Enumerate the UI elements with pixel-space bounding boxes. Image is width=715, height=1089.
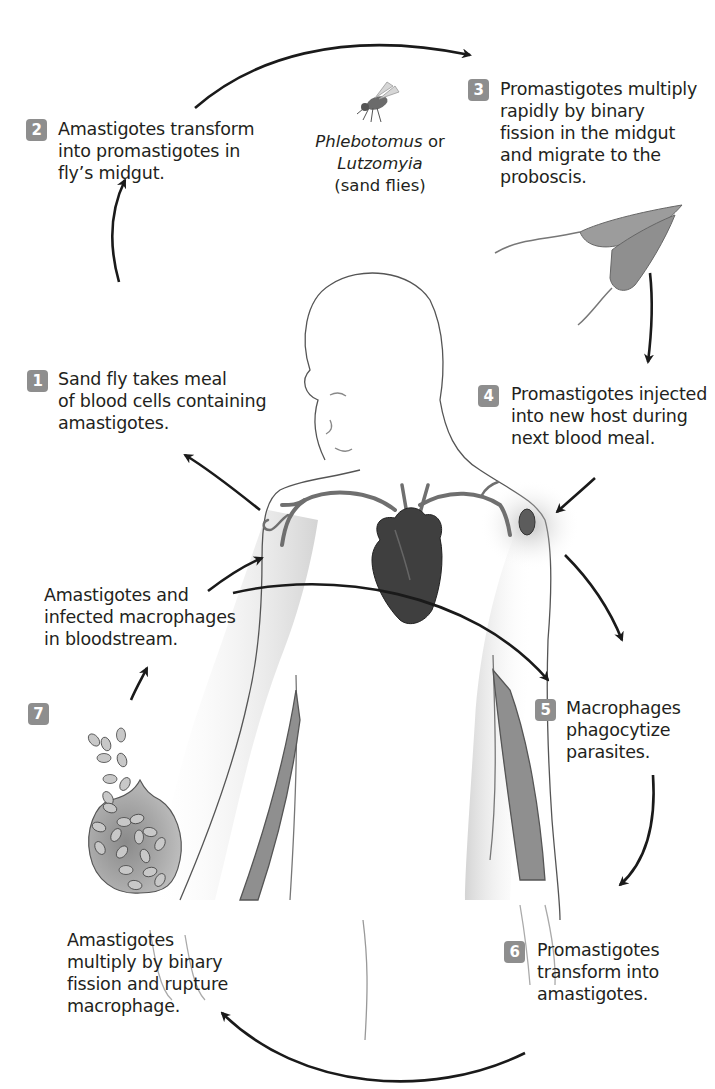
arrow-host-to-5 [565,555,622,640]
arrow-1-to-2 [112,180,125,282]
arrow-2-to-3 [195,45,470,108]
step-1-text: Sand fly takes meal of blood cells conta… [58,368,266,434]
step-7-badge: 7 [28,703,49,725]
lesion-icon [519,509,535,535]
step-3: 3 Promastigotes multiply rapidly by bina… [500,78,697,188]
bloodstream-text: Amastigotes and infected macrophages in … [44,584,236,650]
vector-joiner: or [423,132,445,151]
step-6-text: Promastigotes transform into amastigotes… [537,939,659,1005]
step-4-badge: 4 [478,385,499,407]
arrow-host-to-1 [185,455,260,510]
step-1: 1 Sand fly takes meal of blood cells con… [58,368,266,434]
rupture-annotation: Amastigotes multiply by binary fission a… [67,929,228,1017]
bloodstream-annotation: Amastigotes and infected macrophages in … [44,584,236,650]
heart-icon [372,508,442,624]
step-1-badge: 1 [27,370,48,392]
step-4: 4 Promastigotes injected into new host d… [511,383,707,449]
vector-label: Phlebotomus or Lutzomyia (sand flies) [305,131,455,197]
step-6: 6 Promastigotes transform into amastigot… [537,939,659,1005]
step-4-text: Promastigotes injected into new host dur… [511,383,707,449]
promastigote-icon [495,205,682,325]
leishmania-life-cycle-diagram: Phlebotomus or Lutzomyia (sand flies) 1 … [0,0,715,1089]
step-5-badge: 5 [535,699,556,721]
vector-genus-1: Phlebotomus [315,132,422,151]
step-6-badge: 6 [504,941,525,963]
step-2-badge: 2 [26,119,47,141]
arrow-6-to-rupture [222,1013,525,1081]
step-5: 5 Macrophages phagocytize parasites. [566,697,681,763]
arrow-7-to-bloodstream [131,668,147,700]
arrow-5-to-6 [620,775,654,885]
step-3-text: Promastigotes multiply rapidly by binary… [500,78,697,188]
arrow-3-to-4 [648,273,652,362]
step-2-text: Amastigotes transform into promastigotes… [58,118,254,184]
step-3-badge: 3 [468,79,489,101]
step-2: 2 Amastigotes transform into promastigot… [58,118,254,184]
step-5-text: Macrophages phagocytize parasites. [566,697,681,763]
vector-common-name: (sand flies) [305,175,455,197]
vector-genus-2: Lutzomyia [337,154,422,173]
macrophage-icon [86,728,181,893]
sand-fly-icon [357,82,399,122]
rupture-text: Amastigotes multiply by binary fission a… [67,929,228,1017]
